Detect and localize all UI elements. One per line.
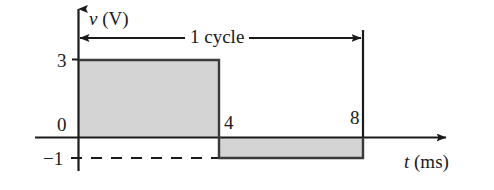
y-axis-title: v (V) [89,9,129,28]
y-tick-label-0: 0 [57,115,67,134]
x-tick-label-4: 4 [224,113,234,132]
cycle-span-label: 1 cycle [185,27,249,46]
waveform-figure: 1 cycle v (V) t (ms) 3 0 −1 4 8 [0,0,494,190]
y-axis-unit: (V) [102,8,128,29]
x-axis-title: t (ms) [404,152,449,171]
x-axis-unit: (ms) [414,151,449,172]
waveform-fill-positive [79,60,219,137]
y-tick-label-neg1: −1 [43,149,63,168]
x-tick-label-8: 8 [350,108,360,127]
y-axis-variable: v [89,8,97,29]
y-tick-label-3: 3 [57,51,67,70]
x-axis-variable: t [404,151,409,172]
waveform-fill-negative [219,138,363,158]
